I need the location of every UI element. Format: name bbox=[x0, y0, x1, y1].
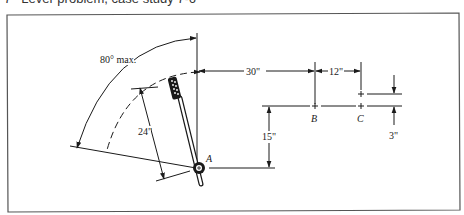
figure-frame bbox=[7, 13, 460, 212]
dim-30-label: 30" bbox=[246, 66, 260, 77]
dim-3-label: 3" bbox=[389, 130, 398, 141]
lever-diagram: 80° max. 24" 30" 12" 15" 3" A B C bbox=[0, 0, 464, 215]
dim-15-label: 15" bbox=[262, 131, 276, 142]
angle-label: 80° max. bbox=[100, 54, 136, 65]
point-A-label: A bbox=[205, 153, 213, 164]
length-ext-top bbox=[131, 87, 158, 89]
lever-handle bbox=[167, 76, 205, 184]
point-C-label: C bbox=[357, 113, 364, 124]
length-ext-bottom bbox=[156, 171, 190, 181]
dim-12-label: 12" bbox=[329, 66, 343, 77]
max-angle-line bbox=[70, 146, 196, 168]
point-B-label: B bbox=[311, 113, 317, 124]
lever-length-label: 24" bbox=[138, 126, 152, 137]
